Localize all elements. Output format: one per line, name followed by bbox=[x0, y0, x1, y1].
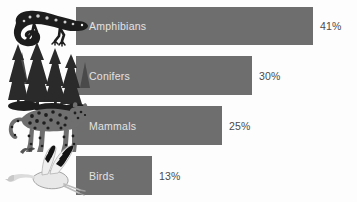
bar-value-birds: 13% bbox=[159, 170, 181, 181]
bar-label-amphibians: Amphibians bbox=[89, 21, 146, 32]
bar-chart: Amphibians 41% bbox=[0, 0, 357, 202]
chart-row-birds: Birds 13% bbox=[0, 156, 357, 195]
chart-row-conifers: Conifers 30% bbox=[0, 56, 357, 95]
bar-label-mammals: Mammals bbox=[89, 120, 136, 131]
chart-row-amphibians: Amphibians 41% bbox=[0, 7, 357, 45]
bar-label-conifers: Conifers bbox=[89, 70, 130, 81]
chart-row-mammals: Mammals 25% bbox=[0, 106, 357, 145]
bar-value-amphibians: 41% bbox=[320, 21, 342, 32]
bar-label-birds: Birds bbox=[89, 170, 114, 181]
bar-value-mammals: 25% bbox=[229, 120, 251, 131]
bar-value-conifers: 30% bbox=[259, 70, 281, 81]
